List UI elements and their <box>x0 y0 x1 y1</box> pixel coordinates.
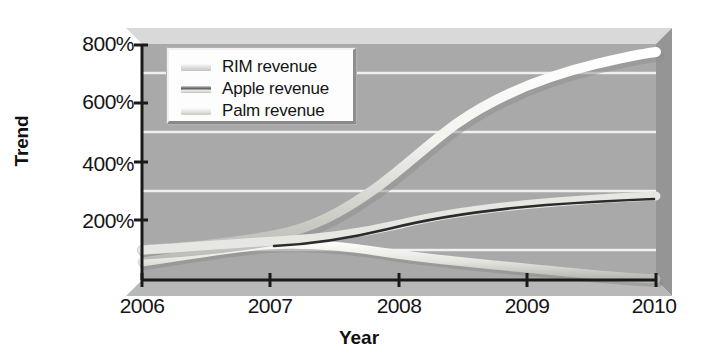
y-tick-800: 800% <box>52 32 134 56</box>
x-tick-2008: 2008 <box>359 294 439 318</box>
plot-area: RIM revenue Apple revenue Palm revenue <box>126 28 672 296</box>
revenue-trend-chart: Trend 800% 600% 400% 200% <box>0 0 718 361</box>
legend-label-palm: Palm revenue <box>222 101 325 121</box>
x-tick-2009: 2009 <box>487 294 567 318</box>
line-swatch-palm <box>181 108 211 115</box>
y-axis-label: Trend <box>11 101 33 181</box>
y-tick-600: 600% <box>52 90 134 114</box>
y-tick-400: 400% <box>52 152 134 176</box>
legend-item-apple: Apple revenue <box>181 78 353 100</box>
line-swatch-apple <box>181 86 211 93</box>
legend-label-rim: RIM revenue <box>222 57 317 77</box>
x-tick-2006: 2006 <box>102 294 182 318</box>
wall-top <box>126 28 672 44</box>
legend-item-rim: RIM revenue <box>181 56 353 78</box>
x-tick-2010: 2010 <box>614 294 694 318</box>
legend-label-apple: Apple revenue <box>222 79 329 99</box>
wall-right <box>656 28 672 296</box>
x-axis-label: Year <box>0 327 718 349</box>
legend-item-palm: Palm revenue <box>181 100 353 122</box>
x-tick-2007: 2007 <box>230 294 310 318</box>
chart-legend: RIM revenue Apple revenue Palm revenue <box>167 48 356 124</box>
x-axis-tick-labels: 2006 2007 2008 2009 2010 <box>0 294 718 324</box>
y-tick-200: 200% <box>52 209 134 233</box>
line-swatch-rim <box>181 64 211 71</box>
